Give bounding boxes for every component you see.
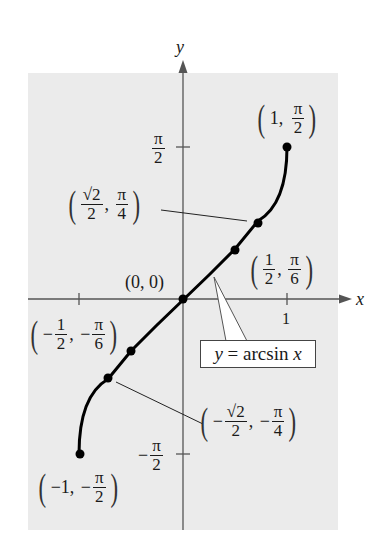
- label-point-nhalf-npi6: (− 12, − π6 ): [28, 315, 120, 353]
- point-origin: [179, 295, 188, 304]
- label-point-rt2-pi4: ( √22, π4 ): [66, 185, 143, 223]
- label-point-n1-npi2: (−1, − π2 ): [36, 468, 120, 506]
- function-callout-box: y = arcsin x: [200, 340, 316, 368]
- y-axis-arrow-icon: [179, 60, 188, 73]
- point-nrt2-npi4: [104, 374, 113, 383]
- label-point-1-pi2: (1, π2 ): [255, 99, 319, 137]
- y-tick-label-bottom: − π2: [138, 437, 163, 474]
- x-axis-label: x: [356, 290, 364, 308]
- y-axis-label: y: [176, 38, 184, 56]
- point-rt2-pi4: [254, 219, 263, 228]
- x-axis-arrow-icon: [339, 295, 352, 304]
- label-point-half-pi6: ( 12, π6 ): [248, 250, 315, 288]
- x-tick-label-1: 1: [282, 311, 290, 327]
- point-1-pi2: [283, 143, 292, 152]
- label-point-origin: (0, 0): [125, 273, 164, 291]
- point-nhalf-npi6: [127, 347, 136, 356]
- plot-area: [0, 0, 391, 543]
- point-half-pi6: [231, 246, 240, 255]
- label-point-nrt2-npi4: (− √22, − π4 ): [198, 402, 299, 440]
- point-n1-npi2: [76, 450, 85, 459]
- y-tick-label-top: π2: [152, 130, 165, 167]
